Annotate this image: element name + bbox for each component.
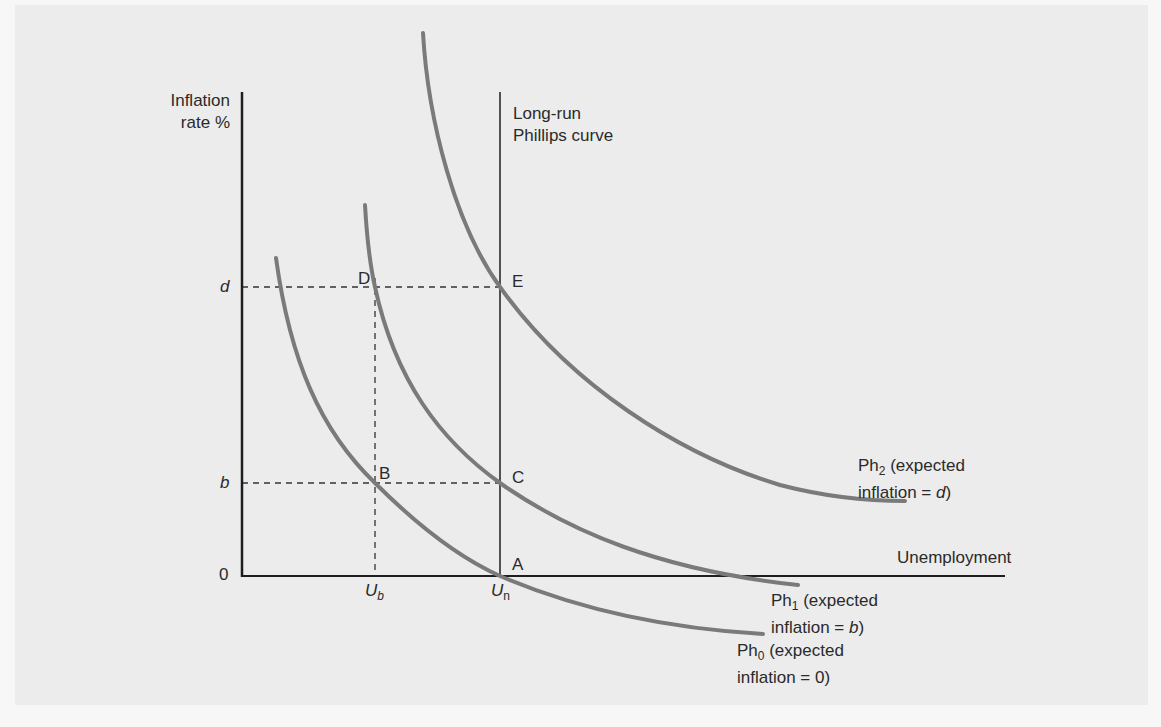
point-b-label: B [379,463,390,485]
y-tick-b: b [220,472,229,494]
ph1-label: Ph1 (expected inflation = b) [771,590,878,639]
point-d-label: D [358,268,370,290]
lrpc-label-line2: Phillips curve [513,125,613,147]
point-a-label: A [512,554,523,576]
y-tick-d: d [220,276,229,298]
curve-ph1 [365,205,798,585]
y-axis-label: Inflation rate % [140,90,230,134]
x-tick-un: Un [491,580,510,607]
ph2-label: Ph2 (expected inflation = d) [858,455,965,504]
y-axis-label-line1: Inflation [140,90,230,112]
lrpc-label: Long-run Phillips curve [513,103,613,147]
ph0-label: Ph0 (expected inflation = 0) [737,640,844,689]
x-axis-label: Unemployment [897,547,1011,569]
point-c-label: C [512,467,524,489]
origin-label: 0 [219,564,228,586]
point-e-label: E [512,271,523,293]
curve-ph2 [423,33,905,501]
y-axis-label-line2: rate % [140,112,230,134]
lrpc-label-line1: Long-run [513,103,613,125]
x-tick-ub: Ub [365,580,384,607]
